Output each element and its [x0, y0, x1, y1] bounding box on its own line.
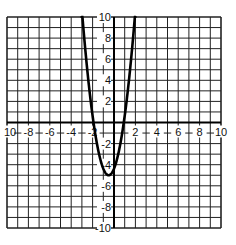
y-tick-label: 4 — [105, 74, 111, 86]
y-tick-label: -10 — [95, 222, 111, 234]
y-tick-label: 10 — [99, 11, 111, 23]
y-tick-label: -8 — [101, 201, 111, 213]
x-tick-label: -4 — [66, 126, 76, 138]
y-tick-label: 2 — [105, 95, 111, 107]
coordinate-plane: 10-8-6-4-2246810 108642-2-4-6-8-10 — [0, 0, 236, 245]
x-tick-label: 4 — [154, 126, 160, 138]
x-tick-label: 8 — [197, 126, 203, 138]
x-tick-label: 2 — [132, 126, 138, 138]
x-tick-label: 6 — [175, 126, 181, 138]
y-tick-label: 8 — [105, 32, 111, 44]
x-tick-label: -6 — [45, 126, 55, 138]
y-tick-label: -6 — [101, 180, 111, 192]
y-tick-label: -2 — [101, 138, 111, 150]
x-tick-label: -8 — [24, 126, 34, 138]
y-tick-label: 6 — [105, 53, 111, 65]
x-tick-label: 10 — [215, 126, 227, 138]
x-tick-label: 10 — [4, 126, 16, 138]
